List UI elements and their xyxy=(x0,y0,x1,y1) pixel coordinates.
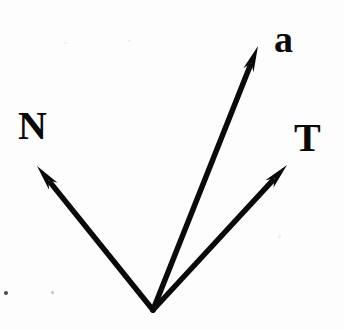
vector-N xyxy=(37,166,153,310)
vector-T xyxy=(153,165,287,310)
vector-label-a: a xyxy=(274,20,293,58)
vector-a-shaft xyxy=(153,66,250,310)
vector-N-shaft xyxy=(50,183,153,310)
vector-a xyxy=(153,46,258,310)
vector-T-shaft xyxy=(153,181,273,310)
vector-label-T: T xyxy=(294,118,321,158)
vector-label-N: N xyxy=(18,106,47,146)
vector-diagram-figure: N a T xyxy=(0,0,344,330)
